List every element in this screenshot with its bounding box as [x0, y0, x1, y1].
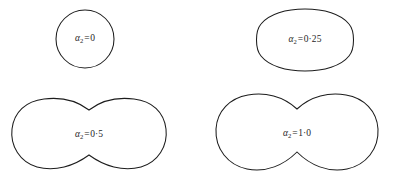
parameter-value: 0·25 — [304, 34, 322, 44]
shape-panel-alpha-10: α2=1·0 — [212, 92, 382, 178]
shape-panel-alpha-0: α2=0 — [52, 8, 118, 72]
shape-label-alpha-05: α2=0·5 — [6, 130, 172, 140]
shape-label-alpha-10: α2=1·0 — [212, 129, 382, 139]
symbol-alpha: α — [288, 34, 293, 44]
parameter-value: 1·0 — [298, 128, 311, 138]
shape-label-alpha-0: α2=0 — [52, 34, 118, 44]
shape-panel-alpha-025: α2=0·25 — [248, 6, 362, 76]
shape-panel-alpha-05: α2=0·5 — [6, 96, 172, 176]
figure-container: α2=0 α2=0·25 α2=0·5 α2=1·0 — [0, 0, 393, 184]
parameter-value: 0·5 — [90, 129, 103, 139]
parameter-value: 0 — [90, 33, 95, 43]
shape-label-alpha-025: α2=0·25 — [248, 35, 362, 45]
